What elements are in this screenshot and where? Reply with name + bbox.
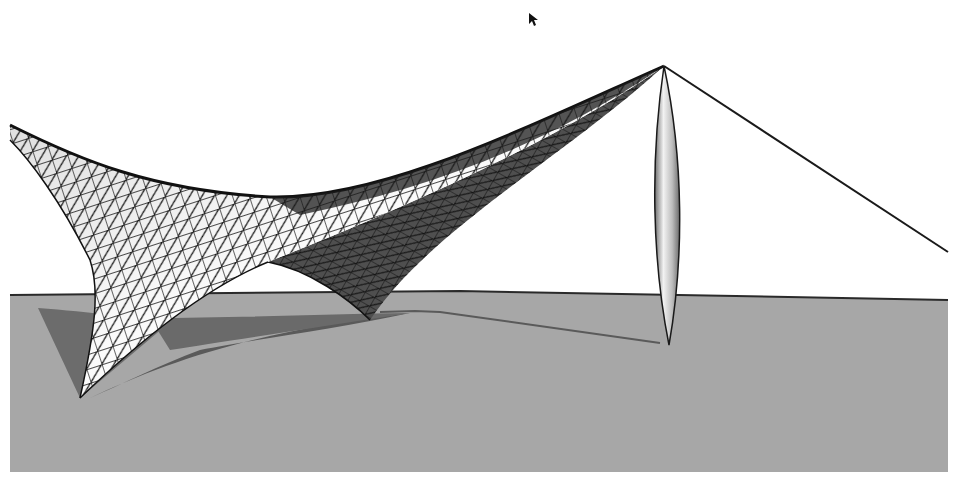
tension-cable [664, 66, 948, 252]
mouse-cursor-icon [529, 13, 539, 27]
membrane-structure-figure [0, 0, 967, 481]
